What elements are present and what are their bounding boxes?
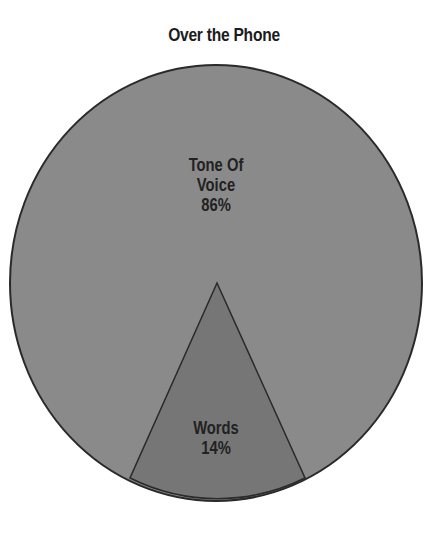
label-words: Words 14% [150,418,281,458]
label-tone-of-voice: Tone Of Voice 86% [150,155,281,215]
label-words-line1: Words [150,418,281,438]
label-tone-percent: 86% [150,195,281,215]
label-words-percent: 14% [150,438,281,458]
label-tone-line2: Voice [150,175,281,195]
label-tone-line1: Tone Of [150,155,281,175]
